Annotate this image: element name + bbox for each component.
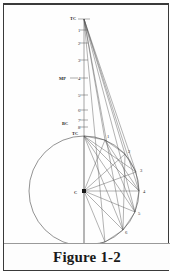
axis-tick-label-7: 7 bbox=[78, 118, 81, 123]
curve-diagram-svg: TC 1 2 3 4 5 6 7 8 MP BC TC BC C 1 2 3 4… bbox=[4, 5, 170, 247]
diagram-canvas: TC 1 2 3 4 5 6 7 8 MP BC TC BC C 1 2 3 4… bbox=[4, 5, 170, 247]
label-mp: MP bbox=[59, 76, 66, 81]
cross-chord-2-6 bbox=[123, 154, 125, 230]
center-point-marker bbox=[82, 189, 86, 193]
radius-c-1 bbox=[84, 140, 105, 191]
radius-c-7 bbox=[84, 191, 105, 242]
chord-tc-5 bbox=[84, 19, 135, 212]
cross-chord-group bbox=[84, 136, 139, 230]
figure-caption-bar: Figure 1-2 bbox=[4, 243, 170, 270]
axis-tick-label-2: 2 bbox=[78, 41, 81, 46]
circle-point-label-2: 2 bbox=[128, 149, 131, 154]
figure-caption: Figure 1-2 bbox=[53, 249, 121, 266]
axis-tick-label-5: 5 bbox=[78, 93, 81, 98]
label-tc-curve: TC bbox=[72, 131, 78, 136]
circle-point-label-3: 3 bbox=[140, 168, 143, 173]
circle-point-label-6: 6 bbox=[125, 230, 128, 235]
cross-chord-tc-6 bbox=[84, 136, 123, 230]
label-bc-axis: BC bbox=[62, 121, 68, 126]
axis-tick-label-3: 3 bbox=[78, 58, 81, 63]
circle-point-label-5: 5 bbox=[138, 211, 141, 216]
circle-point-label-4: 4 bbox=[143, 189, 146, 194]
circle-point-label-1: 1 bbox=[107, 134, 110, 139]
cross-chord-tc-5 bbox=[84, 136, 135, 212]
cross-chord-1-5 bbox=[105, 140, 135, 212]
figure-frame: TC 1 2 3 4 5 6 7 8 MP BC TC BC C 1 2 3 4… bbox=[3, 3, 169, 271]
cross-chord-tc-3 bbox=[84, 136, 136, 172]
axis-tick-label-4: 4 bbox=[78, 76, 81, 81]
radial-line-group bbox=[84, 136, 139, 246]
label-tc-top: TC bbox=[70, 16, 76, 21]
label-center-c: C bbox=[74, 190, 77, 195]
chord-tc-6 bbox=[84, 19, 123, 230]
axis-tick-label-1: 1 bbox=[78, 28, 81, 33]
axis-tick-label-6: 6 bbox=[78, 108, 81, 113]
tangent-chord-group bbox=[84, 19, 139, 242]
axis-tick-label-8: 8 bbox=[78, 125, 81, 130]
